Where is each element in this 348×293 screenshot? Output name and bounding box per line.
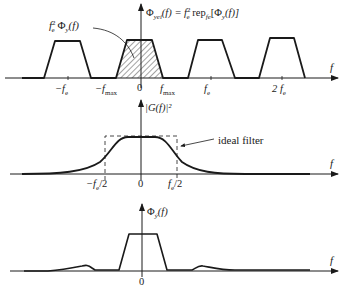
panel1-axis-label: f	[330, 61, 335, 73]
panel3-axis-label: f	[330, 254, 335, 266]
tick-zero: 0	[138, 178, 143, 189]
panel2-title: |G(f)|²	[145, 102, 172, 114]
panel2-axis-label: f	[330, 157, 335, 169]
filter-curve	[22, 137, 310, 174]
center-spectrum-hatched	[116, 40, 163, 78]
tick-2fe: 2 fe	[272, 83, 286, 97]
ideal-filter-label: ideal filter	[218, 134, 264, 146]
tick-zero: 0	[137, 82, 142, 93]
panel3-title: Φỹ(f)	[147, 206, 168, 220]
tick-fe: fe	[204, 83, 210, 97]
callout-label: f2e Φy(f)	[49, 19, 79, 34]
tick-minus-fe-half: −fe/2	[86, 178, 107, 192]
tick-zero: 0	[139, 276, 144, 287]
panel1-title: Φyei(f) = f2e repfe[Φy(f)]	[146, 6, 239, 21]
panel-filter-response: ideal filter |G(f)|² f −fe/2 0 fe/2	[10, 100, 338, 192]
panel-sampled-spectrum: f2e Φy(f) Φyei(f) = f2e repfe[Φy(f)] f −…	[5, 4, 338, 97]
tick-minus-fmax: −fmax	[95, 83, 118, 97]
panel-filtered-spectrum: Φỹ(f) f 0	[10, 204, 338, 287]
tick-fe-half: fe/2	[168, 178, 182, 192]
ideal-filter-arrow	[181, 139, 214, 146]
figure-canvas: f2e Φy(f) Φyei(f) = f2e repfe[Φy(f)] f −…	[0, 0, 348, 293]
tick-fmax: fmax	[160, 83, 175, 97]
filtered-spectrum-curve	[24, 234, 310, 271]
tick-minus-fe: −fe	[55, 83, 68, 97]
spectrum-replicas	[22, 38, 305, 78]
